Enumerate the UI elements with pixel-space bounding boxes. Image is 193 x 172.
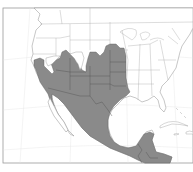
range-map	[0, 0, 193, 172]
hispaniola	[186, 131, 193, 134]
